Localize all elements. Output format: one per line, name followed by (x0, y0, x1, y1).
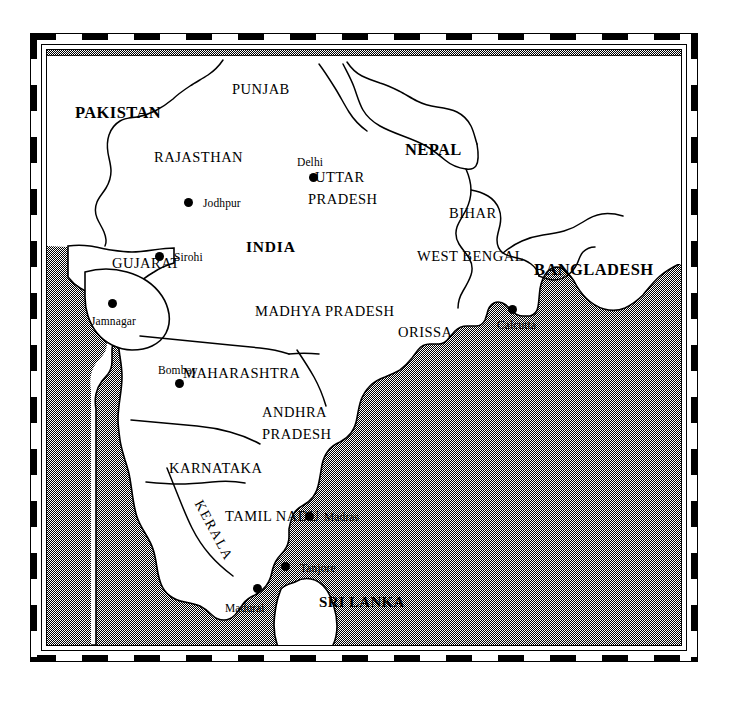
state-label-karnataka-12: KARNATAKA (169, 461, 263, 476)
city-label-madurai: Madurai (225, 603, 265, 615)
city-dot-delhi[interactable] (309, 173, 318, 182)
country-label-pakistan: PAKISTAN (75, 105, 161, 122)
state-label-uttar-2: UTTAR (315, 170, 365, 185)
city-dot-sirohi[interactable] (155, 252, 164, 261)
state-label-madhya-pradesh-7: MADHYA PRADESH (255, 304, 395, 319)
graticule-border-right (691, 33, 698, 662)
state-label-maharashtra-9: MAHARASHTRA (183, 366, 301, 381)
city-dot-bombay[interactable] (175, 379, 184, 388)
city-label-tanjore: Tanjore (300, 563, 336, 575)
state-label-orissa-8: ORISSA (398, 325, 453, 340)
state-label-punjab-0: PUNJAB (232, 82, 290, 97)
city-label-bombay: Bombay (158, 365, 198, 377)
city-label-delhi: Delhi (297, 157, 323, 169)
map-figure: PAKISTANNEPALBANGLADESHSRI LANKAINDIAPUN… (0, 0, 731, 706)
map-canvas (47, 50, 681, 645)
graticule-border-bottom (30, 655, 698, 662)
graticule-border-left (30, 33, 37, 662)
country-label-bangladesh: BANGLADESH (534, 262, 654, 279)
state-label-gujarat-6: GUJARAT (112, 256, 180, 271)
city-label-sirohi: Sirohi (174, 252, 203, 264)
state-label-pradesh-11: PRADESH (262, 427, 332, 442)
city-label-madras: Madras (324, 512, 359, 524)
country-label-india: INDIA (246, 239, 296, 255)
map-frame-outer: PAKISTANNEPALBANGLADESHSRI LANKAINDIAPUN… (30, 33, 698, 662)
city-dot-jodhpur[interactable] (184, 198, 193, 207)
city-label-jamnagar: Jamnagar (91, 316, 136, 328)
land-northern-block (47, 56, 681, 264)
city-dot-jamnagar[interactable] (108, 299, 117, 308)
state-label-pradesh-3: PRADESH (308, 192, 378, 207)
state-label-west-bengal-5: WEST BENGAL (417, 249, 524, 264)
city-label-jodhpur: Jodhpur (203, 198, 241, 210)
map-frame-middle: PAKISTANNEPALBANGLADESHSRI LANKAINDIAPUN… (41, 44, 687, 651)
map-frame-inner: PAKISTANNEPALBANGLADESHSRI LANKAINDIAPUN… (46, 49, 682, 646)
country-label-nepal: NEPAL (405, 142, 462, 159)
city-dot-madras[interactable] (305, 512, 314, 521)
city-dot-madurai[interactable] (253, 584, 262, 593)
state-label-bihar-4: BIHAR (449, 206, 497, 221)
graticule-border-top (30, 33, 698, 40)
city-dot-tanjore[interactable] (281, 562, 290, 571)
city-label-calcutta: Calcutta (497, 320, 536, 332)
country-label-sri-lanka: SRI LANKA (319, 595, 405, 610)
city-dot-calcutta[interactable] (508, 305, 517, 314)
state-label-andhra-10: ANDHRA (262, 405, 327, 420)
state-label-rajasthan-1: RAJASTHAN (154, 150, 243, 165)
